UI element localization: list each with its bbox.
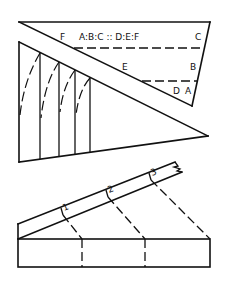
arc-4 <box>76 78 90 115</box>
arc-3 <box>60 70 75 112</box>
label-B: B <box>190 62 196 72</box>
transfer-line-2 <box>108 197 145 239</box>
proportional-division-diagram: F A:B:C :: D:E:F C E B D A <box>0 0 225 282</box>
middle-wedge <box>19 42 208 162</box>
label-C: C <box>195 32 201 42</box>
ruler-break <box>174 162 182 172</box>
bottom-figure <box>18 162 210 267</box>
ruler-bottom-edge <box>18 172 182 239</box>
label-E: E <box>122 62 128 72</box>
label-A: A <box>185 86 192 96</box>
transfer-line-1 <box>63 215 82 239</box>
arc-2 <box>41 62 59 118</box>
label-F: F <box>60 32 65 42</box>
transfer-line-3 <box>151 180 210 239</box>
proportion-label: A:B:C :: D:E:F <box>79 32 139 42</box>
label-D: D <box>173 86 180 96</box>
arc-1 <box>20 53 40 115</box>
